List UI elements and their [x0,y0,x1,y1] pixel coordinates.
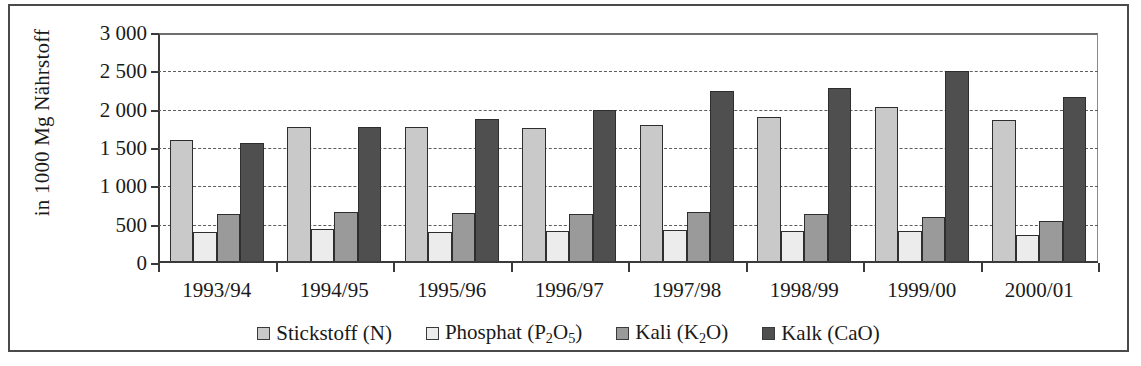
bar [687,212,711,263]
bar [1063,97,1087,263]
bar [358,127,382,263]
legend-swatch-icon [616,327,629,340]
y-axis-label: 1 500 [100,136,147,161]
x-axis-label: 1994/95 [300,278,369,303]
x-axis-label: 1995/96 [417,278,486,303]
bar [569,214,593,263]
bar [311,229,335,264]
bar [593,110,617,263]
y-axis-label: 1 000 [100,174,147,199]
bar-group [393,33,511,263]
legend-phosphat[interactable]: Phosphat (P2O5) [426,320,582,347]
y-axis-label: 2 500 [100,59,147,84]
legend-label: Kali (K2O) [635,320,728,347]
legend-label: Kalk (CaO) [781,321,880,346]
legend-label: Phosphat (P2O5) [445,320,582,347]
bar-group [628,33,746,263]
bar [428,232,452,263]
legend-swatch-icon [762,327,775,340]
y-axis-label: 0 [137,251,148,276]
bar-group [981,33,1099,263]
x-axis-tick [981,263,983,272]
bar [334,212,358,263]
bar [1039,221,1063,263]
x-axis-label: 2000/01 [1005,278,1074,303]
bar [828,88,852,263]
chart-legend: Stickstoff (N)Phosphat (P2O5)Kali (K2O)K… [10,320,1127,347]
bar-group [276,33,394,263]
bar [781,231,805,263]
bar [405,127,429,263]
x-axis-label: 1997/98 [652,278,721,303]
bar [945,71,969,263]
bar [875,107,899,263]
bar [170,140,194,263]
x-axis-label: 1993/94 [182,278,251,303]
bar-group [158,33,276,263]
bar [1016,235,1040,263]
bar [522,128,546,263]
x-axis-tick [746,263,748,272]
bar [217,214,241,263]
bar [475,119,499,263]
bar [546,231,570,263]
bar [898,231,922,263]
legend-kali[interactable]: Kali (K2O) [616,320,728,347]
bar [757,117,781,263]
x-axis-tick [628,263,630,272]
legend-label: Stickstoff (N) [276,321,392,346]
x-axis-baseline [158,261,1098,263]
x-axis-tick [276,263,278,272]
plot-area: 3 0002 5002 0001 5001 0005000 1993/94199… [158,33,1098,263]
bar [922,217,946,263]
bar [193,232,217,263]
y-axis-label: 500 [116,212,148,237]
legend-kalk[interactable]: Kalk (CaO) [762,321,880,346]
bar [240,143,264,263]
x-axis-tick [158,263,160,272]
y-axis-title: in 1000 Mg Nährstoff [30,23,55,223]
legend-stickstoff[interactable]: Stickstoff (N) [257,321,392,346]
bar [452,213,476,263]
bar [640,125,664,263]
bar [663,230,687,263]
x-axis-label: 1996/97 [535,278,604,303]
x-axis-label: 1998/99 [770,278,839,303]
x-axis-tick [1098,263,1100,272]
bar [287,127,311,263]
bar-group [863,33,981,263]
x-axis-tick [511,263,513,272]
x-axis-tick [863,263,865,272]
y-axis-label: 3 000 [100,21,147,46]
bar-group [511,33,629,263]
legend-swatch-icon [426,327,439,340]
chart-figure: in 1000 Mg Nährstoff 3 0002 5002 0001 50… [8,4,1129,352]
bar-group [746,33,864,263]
bar [710,91,734,264]
y-axis-label: 2 000 [100,97,147,122]
bar [804,214,828,263]
legend-swatch-icon [257,327,270,340]
x-axis-tick [393,263,395,272]
x-axis-label: 1999/00 [887,278,956,303]
bar [992,120,1016,263]
